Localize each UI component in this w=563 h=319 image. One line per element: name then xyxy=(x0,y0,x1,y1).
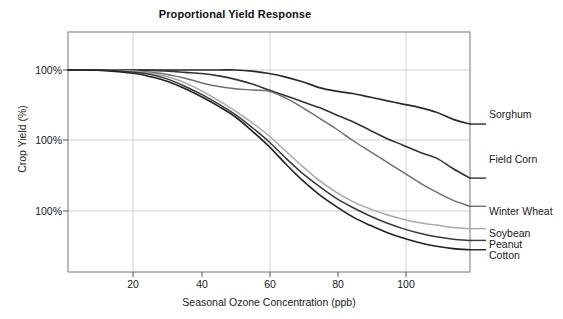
chart-figure: Proportional Yield Response Crop Yield (… xyxy=(0,0,563,319)
series-path-soybean xyxy=(68,70,470,229)
leader-lines xyxy=(470,124,486,250)
series-path-cotton xyxy=(68,70,470,250)
series-paths xyxy=(68,70,470,250)
series-path-sorghum xyxy=(68,70,470,124)
series-path-peanut xyxy=(68,70,470,241)
grid-lines xyxy=(68,32,470,272)
plot-frame xyxy=(68,32,470,272)
chart-canvas xyxy=(0,0,563,319)
axis-ticks xyxy=(63,70,406,277)
series-path-field-corn xyxy=(68,70,470,178)
